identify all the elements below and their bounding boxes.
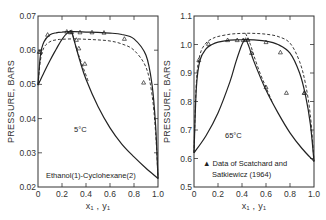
y-tick-label: 0.8 bbox=[180, 97, 192, 107]
x-axis-title: x₁ , y₁ bbox=[86, 201, 111, 211]
x-tick-label: 0.4 bbox=[236, 189, 248, 199]
triangle-marker-icon bbox=[284, 91, 288, 95]
triangle-marker-icon bbox=[46, 33, 50, 37]
y-tick-label: 0.05 bbox=[19, 79, 36, 89]
x-axis-title: x₁ , y₁ bbox=[242, 201, 267, 211]
y-tick-label: 0.06 bbox=[19, 45, 36, 55]
y-tick-label: 1.1 bbox=[180, 11, 192, 21]
triangle-marker-icon bbox=[122, 37, 126, 41]
x-tick-label: 0.4 bbox=[80, 189, 92, 199]
temperature-label: 65°C bbox=[225, 131, 242, 140]
y-tick-label: 0.02 bbox=[19, 182, 36, 192]
figure: 00.20.40.60.81.00.070.060.050.040.030.02… bbox=[0, 0, 326, 220]
plot-frame bbox=[38, 16, 158, 187]
triangle-marker-icon bbox=[142, 80, 146, 84]
left-panel-plot: 00.20.40.60.81.00.070.060.050.040.030.02… bbox=[6, 11, 164, 211]
triangle-marker-icon bbox=[77, 46, 81, 50]
series-solid-line bbox=[38, 31, 158, 178]
y-tick-label: 0.7 bbox=[180, 125, 192, 135]
triangle-marker-icon bbox=[74, 38, 78, 42]
y-axis-title: PRESSURE, BARS bbox=[162, 60, 172, 143]
x-tick-label: 0 bbox=[192, 189, 197, 199]
y-tick-label: 0.9 bbox=[180, 68, 192, 78]
x-tick-label: 0 bbox=[36, 189, 41, 199]
system-label: Ethanol(1)-Cyclohexane(2) bbox=[46, 171, 136, 180]
y-tick-label: 0.07 bbox=[19, 11, 36, 21]
legend-line-2: Satkiewicz (1964) bbox=[212, 170, 272, 179]
x-tick-label: 1.0 bbox=[308, 189, 320, 199]
y-tick-label: 0.5 bbox=[180, 182, 192, 192]
x-tick-label: 0.6 bbox=[104, 189, 116, 199]
series-dashed-line bbox=[194, 33, 314, 161]
series-solid-line bbox=[194, 40, 314, 162]
x-tick-label: 0.2 bbox=[56, 189, 68, 199]
triangle-marker-icon bbox=[83, 62, 87, 66]
x-tick-label: 0.8 bbox=[284, 189, 296, 199]
y-tick-label: 1.0 bbox=[180, 40, 192, 50]
y-tick-label: 0.03 bbox=[19, 148, 36, 158]
x-tick-label: 0.2 bbox=[212, 189, 224, 199]
y-axis-title: PRESSURE, BARS bbox=[6, 60, 16, 143]
y-tick-label: 0.6 bbox=[180, 154, 192, 164]
y-tick-label: 0.04 bbox=[19, 114, 36, 124]
series-dashed-line bbox=[38, 39, 158, 179]
triangle-marker-icon bbox=[278, 50, 282, 54]
series-solid-line bbox=[194, 40, 314, 162]
series-solid-line bbox=[38, 32, 158, 179]
right-panel-plot: 00.20.40.60.81.01.11.00.90.80.70.60.5PRE… bbox=[162, 11, 320, 211]
x-tick-label: 1.0 bbox=[152, 189, 164, 199]
x-tick-label: 0.6 bbox=[260, 189, 272, 199]
legend-line-1: ▲ Data of Scatchard and bbox=[203, 159, 287, 168]
x-tick-label: 0.8 bbox=[128, 189, 140, 199]
temperature-label: 5°C bbox=[74, 125, 87, 134]
